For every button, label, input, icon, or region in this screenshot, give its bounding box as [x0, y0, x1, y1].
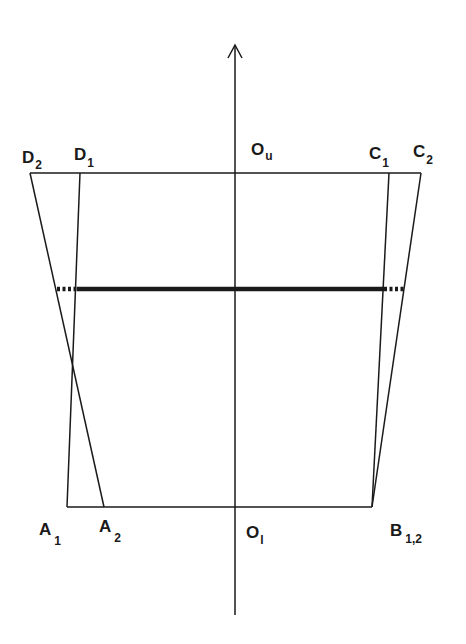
label-d2: D2	[22, 148, 42, 172]
edge-a1-d1	[67, 173, 80, 507]
label-a1: A1	[39, 520, 61, 548]
label-b12: B1,2	[390, 521, 422, 546]
trapezoid-diagram: D2 D1 Ou C1 C2 A1 A2 Ol B1,2	[0, 0, 466, 644]
label-c1: C1	[369, 144, 389, 170]
label-c2: C2	[413, 142, 433, 167]
edge-b-c1	[372, 173, 389, 507]
label-d1: D1	[74, 145, 94, 170]
label-a2: A2	[99, 517, 121, 545]
label-ol: Ol	[246, 523, 264, 547]
label-ou: Ou	[251, 140, 273, 163]
edge-a2-d2	[30, 173, 104, 507]
vertical-axis	[228, 45, 242, 615]
edge-b-c2	[372, 173, 421, 507]
